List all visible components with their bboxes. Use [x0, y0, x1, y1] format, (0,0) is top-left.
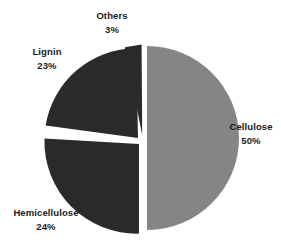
- pie-label-cellulose-name: Cellulose: [222, 120, 280, 134]
- pie-label-others-name: Others: [84, 9, 140, 23]
- pie-label-others: Others 3%: [84, 9, 140, 37]
- pie-label-lignin-value: 23%: [20, 59, 74, 73]
- pie-label-hemicellulose-value: 24%: [4, 220, 88, 234]
- pie-label-hemicellulose: Hemicellulose 24%: [4, 206, 88, 234]
- pie-label-lignin-name: Lignin: [20, 45, 74, 59]
- pie-label-cellulose: Cellulose 50%: [222, 120, 280, 148]
- pie-label-lignin: Lignin 23%: [20, 45, 74, 73]
- pie-label-cellulose-value: 50%: [222, 134, 280, 148]
- pie-label-hemicellulose-name: Hemicellulose: [4, 206, 88, 220]
- pie-label-others-value: 3%: [84, 23, 140, 37]
- pie-chart-figure: Others 3% Lignin 23% Cellulose 50% Hemic…: [0, 0, 281, 248]
